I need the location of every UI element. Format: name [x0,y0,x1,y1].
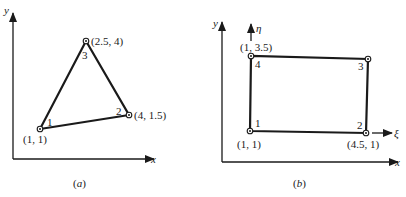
node-coordinate-label: (1, 1) [23,133,47,146]
figure-b-rectangle-element: y x η ξ 1 (1, 1) 2 (4.5, 1) 3 4 (1, 3.5) [212,17,400,190]
y-axis-label: y [3,4,9,16]
finite-element-figure: y x 1 (1, 1) 2 (4, 1.5) 3 (2.5, 4) (a) y… [0,0,406,197]
figure-a-triangle-element: y x 1 (1, 1) 2 (4, 1.5) 3 (2.5, 4) (a) [3,4,166,190]
x-axis-label: x [394,156,400,168]
node-coordinate-label: (4.5, 1) [347,138,379,151]
node-1: 1 (1, 1) [23,116,53,146]
node-number: 4 [255,58,261,70]
node-number: 1 [47,116,53,128]
figure-caption: (a) [73,177,86,190]
node-coordinate-label: (2.5, 4) [91,35,123,48]
xi-axis-label: ξ [394,127,399,140]
eta-axis-label: η [256,22,261,34]
node-number: 3 [358,60,364,72]
node-coordinate-label: (4, 1.5) [134,109,166,122]
x-axis-label: x [150,153,156,165]
figure-caption: (b) [293,177,306,190]
node-number: 3 [82,49,88,61]
y-axis-label: y [212,17,218,29]
node-number: 2 [357,119,363,131]
node-number: 1 [255,117,261,129]
node-coordinate-label: (1, 3.5) [240,41,272,54]
node-number: 2 [116,105,122,117]
node-2: 2 (4.5, 1) [347,119,379,151]
rectangle-edges [250,56,368,133]
node-3: 3 (2.5, 4) [82,35,123,61]
node-coordinate-label: (1, 1) [237,138,261,151]
